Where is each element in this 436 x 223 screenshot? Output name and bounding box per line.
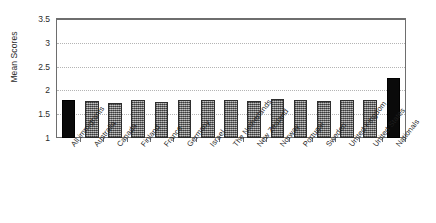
y-axis-tick-label: 1.5 (16, 110, 50, 119)
bar (62, 100, 75, 138)
bar-slot (62, 19, 75, 138)
y-axis-tick-label: 2 (16, 86, 50, 95)
y-axis-tick-label: 3.5 (16, 15, 50, 24)
y-axis-title: Mean Scores (9, 12, 19, 102)
y-axis-tick-label: 1 (16, 134, 50, 143)
bar-chart: Mean Scores 11.522.533.5 All immigrantsA… (0, 0, 436, 223)
bar-slot (224, 19, 237, 138)
y-axis-tick-label: 3 (16, 39, 50, 48)
bar-slot (340, 19, 353, 138)
bar-slot (155, 19, 168, 138)
bar-slot (178, 19, 191, 138)
bar-slot (131, 19, 144, 138)
y-axis-tick-label: 2.5 (16, 63, 50, 72)
bar-slot (294, 19, 307, 138)
x-axis-tick-labels: All immigrantsAustraliaCanadaFinlandFran… (57, 143, 405, 223)
